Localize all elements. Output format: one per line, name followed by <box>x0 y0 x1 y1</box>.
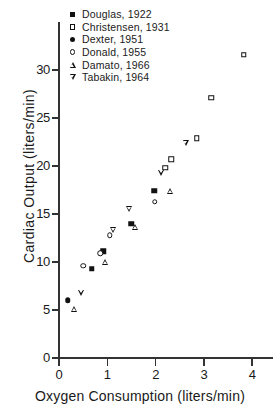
legend-item: Dexter, 1951 <box>66 33 170 46</box>
x-tick <box>58 359 60 366</box>
filled-circle-marker-icon <box>70 37 76 43</box>
legend-item: Damato, 1966 <box>66 58 170 71</box>
data-point <box>167 188 173 194</box>
data-point <box>183 140 189 146</box>
open-circle-marker-icon <box>152 199 158 205</box>
chart-legend: Douglas, 1922Christensen, 1931Dexter, 19… <box>66 8 170 84</box>
legend-label: Damato, 1966 <box>79 59 150 71</box>
x-tick-label: 2 <box>144 368 168 381</box>
legend-item: Tabakin, 1964 <box>66 71 170 84</box>
data-point <box>132 224 138 230</box>
legend-label: Dexter, 1951 <box>79 33 143 45</box>
scatter-chart-figure: 051015202530 01234 Douglas, 1922Christen… <box>0 0 280 416</box>
open-triangle-down-marker-icon <box>183 140 189 146</box>
open-triangle-up-marker-icon <box>70 62 76 68</box>
y-tick <box>52 213 59 215</box>
x-tick-label: 1 <box>95 368 119 381</box>
x-axis-title: Oxygen Consumption (liters/min) <box>0 388 280 404</box>
data-point <box>126 206 132 212</box>
x-tick-label: 4 <box>240 368 264 381</box>
data-point <box>78 290 84 296</box>
legend-label: Tabakin, 1964 <box>79 71 149 83</box>
open-triangle-down-marker-icon <box>158 170 164 176</box>
open-triangle-up-marker-icon <box>167 188 173 194</box>
data-point <box>208 95 214 101</box>
data-point <box>241 52 247 58</box>
y-axis-title: Cardiac Output (liters/min) <box>21 51 37 301</box>
legend-item: Christensen, 1931 <box>66 21 170 34</box>
open-circle-marker-icon <box>97 251 103 257</box>
y-tick-label: 0 <box>26 351 50 364</box>
open-triangle-down-marker-icon <box>78 290 84 296</box>
data-point <box>194 135 200 141</box>
x-tick <box>203 359 205 366</box>
x-tick-label: 3 <box>192 368 216 381</box>
data-point <box>65 298 71 304</box>
open-triangle-down-marker-icon <box>110 227 116 233</box>
y-tick <box>52 261 59 263</box>
open-square-marker-icon <box>241 52 247 58</box>
legend-marker <box>66 37 79 43</box>
data-point <box>80 263 86 269</box>
filled-square-marker-icon <box>151 188 157 194</box>
open-square-marker-icon <box>194 135 200 141</box>
legend-item: Douglas, 1922 <box>66 8 170 21</box>
open-circle-marker-icon <box>70 49 76 55</box>
open-square-marker-icon <box>168 157 174 163</box>
open-triangle-down-marker-icon <box>70 74 76 80</box>
legend-marker <box>66 49 79 55</box>
legend-marker <box>66 74 79 80</box>
y-tick-label: 5 <box>26 303 50 316</box>
open-triangle-up-marker-icon <box>71 306 77 312</box>
filled-square-marker-icon <box>89 266 95 272</box>
open-triangle-up-marker-icon <box>132 224 138 230</box>
legend-item: Donald, 1955 <box>66 46 170 59</box>
data-point <box>102 259 108 265</box>
legend-marker <box>66 24 79 30</box>
data-point <box>151 188 157 194</box>
filled-square-marker-icon <box>70 12 76 18</box>
data-point <box>168 157 174 163</box>
open-square-marker-icon <box>70 24 76 30</box>
legend-marker <box>66 12 79 18</box>
data-point <box>158 170 164 176</box>
data-point <box>97 251 103 257</box>
legend-marker <box>66 62 79 68</box>
open-circle-marker-icon <box>80 263 86 269</box>
x-tick <box>107 359 109 366</box>
data-point <box>110 227 116 233</box>
y-tick <box>52 117 59 119</box>
open-square-marker-icon <box>208 95 214 101</box>
data-point <box>152 199 158 205</box>
x-tick <box>155 359 157 366</box>
filled-circle-marker-icon <box>65 298 71 304</box>
legend-label: Donald, 1955 <box>79 46 146 58</box>
legend-label: Douglas, 1922 <box>79 8 152 20</box>
y-tick <box>52 69 59 71</box>
data-point <box>89 266 95 272</box>
legend-label: Christensen, 1931 <box>79 21 170 33</box>
open-triangle-up-marker-icon <box>102 259 108 265</box>
data-point <box>71 306 77 312</box>
y-tick <box>52 165 59 167</box>
open-triangle-down-marker-icon <box>126 206 132 212</box>
x-tick <box>251 359 253 366</box>
x-tick-label: 0 <box>47 368 71 381</box>
y-tick <box>52 309 59 311</box>
